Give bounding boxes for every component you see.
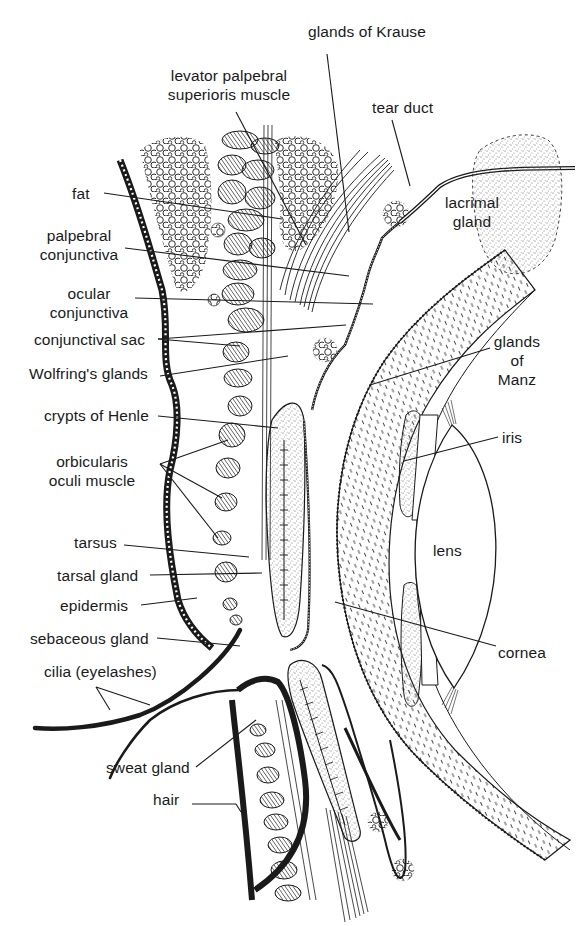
eyelid-anatomy-diagram: glands of Krauselevator palpebral superi… (0, 0, 583, 926)
label-tarsal-gland: tarsal gland (57, 566, 138, 585)
label-glands-of-krause: glands of Krause (308, 22, 426, 41)
label-cilia: cilia (eyelashes) (44, 662, 157, 681)
label-conjunctival-sac: conjunctival sac (34, 330, 145, 349)
label-levator-palpebral: levator palpebral superioris muscle (154, 66, 304, 104)
label-tear-duct: tear duct (372, 98, 433, 117)
leader-sweat-gland-0 (196, 720, 256, 767)
label-ocular-conjunctiva: ocular conjunctiva (44, 284, 134, 322)
label-tarsus: tarsus (74, 533, 117, 552)
label-cornea: cornea (498, 643, 546, 662)
label-crypts-of-henle: crypts of Henle (44, 406, 149, 425)
leader-ocular-conjunctiva-0 (135, 298, 373, 304)
leader-hair-1 (236, 804, 241, 812)
label-glands-of-manz: glands of Manz (481, 332, 553, 389)
label-sebaceous-gland: sebaceous gland (30, 629, 149, 648)
label-epidermis: epidermis (60, 596, 128, 615)
leader-tear-duct-0 (392, 120, 410, 186)
eyelashes (35, 630, 240, 778)
label-lacrimal-gland: lacrimal gland (437, 193, 507, 231)
label-sweat-gland: sweat gland (106, 758, 190, 777)
label-iris: iris (502, 428, 522, 447)
leader-tarsal-gland-0 (150, 573, 262, 575)
leader-epidermis-0 (141, 598, 197, 605)
label-wolfrings-glands: Wolfring's glands (29, 364, 148, 383)
leader-orbicularis-0 (160, 440, 228, 464)
label-orbicularis: orbicularis oculi muscle (44, 452, 140, 490)
tarsus-upper (266, 403, 305, 637)
label-lens: lens (433, 541, 462, 560)
leader-wolfrings-glands-0 (160, 356, 288, 376)
label-fat: fat (72, 184, 90, 203)
leader-conjunctival-sac-1 (158, 339, 240, 346)
label-hair: hair (153, 790, 179, 809)
label-palpebral-conjunctiva: palpebral conjunctiva (36, 226, 122, 264)
leader-tarsus-0 (124, 545, 249, 557)
leader-cilia-1 (96, 687, 150, 705)
